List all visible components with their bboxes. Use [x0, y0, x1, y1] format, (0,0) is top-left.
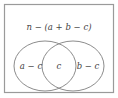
outside-region-label: n − (a + b − c): [27, 22, 92, 32]
left-only-region-label: a − c: [20, 61, 43, 71]
universe-frame: [5, 5, 114, 93]
intersection-region-label: c: [57, 61, 62, 71]
right-only-region-label: b − c: [77, 61, 100, 71]
venn-diagram: n − (a + b − c) a − c c b − c: [0, 0, 118, 98]
